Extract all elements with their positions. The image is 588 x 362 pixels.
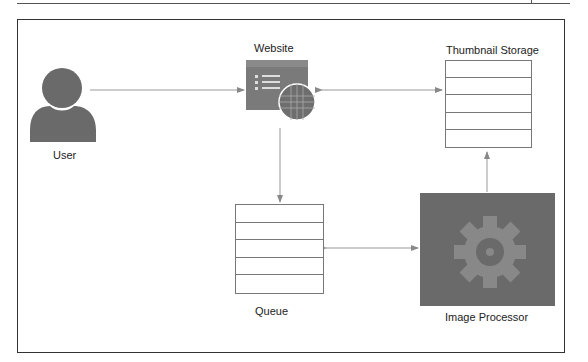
user-icon — [28, 68, 100, 143]
image-processor-label: Image Processor — [445, 311, 528, 323]
thumbnail-storage-label: Thumbnail Storage — [446, 44, 539, 56]
user-label: User — [53, 149, 76, 161]
website-globe-icon — [244, 58, 322, 130]
queue-stack — [235, 204, 324, 294]
website-label: Website — [254, 42, 294, 54]
thumbnail-storage-stack — [445, 60, 532, 148]
queue-label: Queue — [255, 305, 288, 317]
gear-icon — [450, 212, 530, 292]
